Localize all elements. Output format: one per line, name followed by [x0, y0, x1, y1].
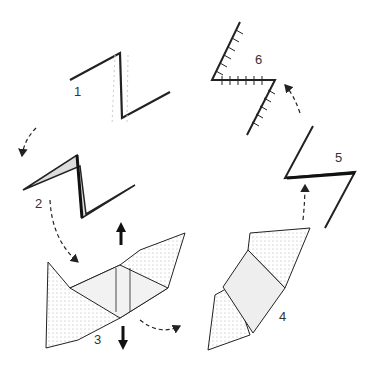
step-4-transposed-flaps	[208, 228, 310, 350]
step-5-rotated-z	[285, 126, 355, 228]
step-6-sutured-closure	[212, 22, 275, 135]
step-label-2: 2	[35, 196, 42, 211]
step-label-3: 3	[94, 332, 101, 347]
diagram-svg	[0, 0, 378, 368]
arrow-1-to-2	[22, 128, 36, 156]
arrow-up-icon-head	[116, 222, 126, 232]
arrow-2-to-3	[50, 200, 78, 262]
arrow-5-to-6	[285, 85, 300, 113]
arrow-3-to-4	[140, 320, 180, 330]
arrow-down-icon-head	[118, 340, 128, 350]
step-3-raised-flaps	[46, 222, 185, 350]
step-label-5: 5	[335, 150, 342, 165]
step-1-z-incision	[70, 53, 170, 125]
step-label-1: 1	[74, 84, 81, 99]
arrow-4-to-5	[303, 185, 305, 220]
diagram-canvas: 1 2 3 4 5 6	[0, 0, 378, 368]
step-label-4: 4	[279, 309, 286, 324]
step-label-6: 6	[255, 52, 262, 67]
